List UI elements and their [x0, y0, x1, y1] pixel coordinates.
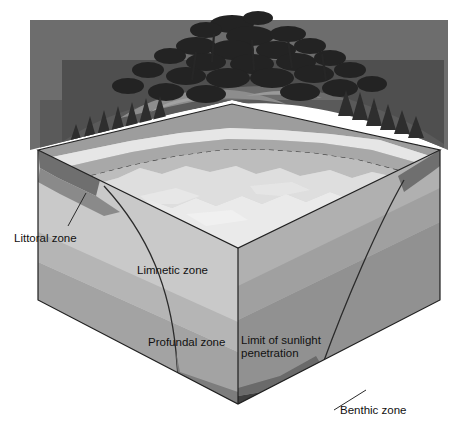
label-limnetic-zone: Limnetic zone — [137, 264, 208, 277]
label-benthic-zone: Benthic zone — [340, 404, 407, 417]
figure-canvas — [0, 0, 471, 437]
figure-caption — [4, 427, 304, 437]
label-sunlight-limit-line2: penetration — [241, 347, 299, 360]
lake-zonation-diagram — [0, 0, 471, 437]
label-littoral-zone: Littoral zone — [14, 232, 77, 245]
label-profundal-zone: Profundal zone — [148, 336, 225, 349]
label-sunlight-limit-line1: Limit of sunlight — [241, 334, 321, 347]
